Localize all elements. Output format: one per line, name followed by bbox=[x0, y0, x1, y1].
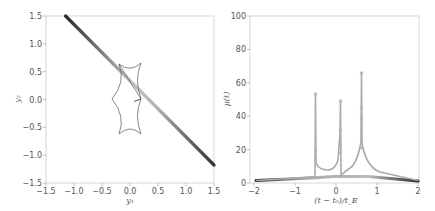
x-tick-label: −1.5 bbox=[36, 187, 55, 196]
left-axes-frame bbox=[46, 16, 214, 183]
y-tick-label: −1.0 bbox=[23, 151, 42, 160]
x-tick-label: 1 bbox=[374, 187, 379, 196]
source-trajectory bbox=[66, 16, 214, 165]
y-tick-label: 1.0 bbox=[29, 40, 42, 49]
y-tick-label: −0.5 bbox=[23, 123, 42, 132]
right-x-axis-label: (t − t₀)/t_E bbox=[314, 196, 358, 205]
y-tick-label: 100 bbox=[231, 12, 246, 21]
x-tick-label: −2 bbox=[248, 187, 260, 196]
left-x-axis-label: y₁ bbox=[125, 196, 134, 205]
right-plot: 100 80 60 40 20 0 −2 −1 0 1 2 (t − t₀)/t… bbox=[222, 12, 421, 205]
x-tick-label: −1 bbox=[289, 187, 301, 196]
left-plot: 1.5 1.0 0.5 0.0 −0.5 −1.0 −1.5 −1.5 −1.0… bbox=[13, 12, 220, 205]
right-y-axis-label: μ(t) bbox=[222, 92, 231, 107]
left-y-axis-label: y₂ bbox=[13, 95, 22, 104]
figure: 1.5 1.0 0.5 0.0 −0.5 −1.0 −1.5 −1.5 −1.0… bbox=[0, 0, 435, 211]
x-tick-label: −0.5 bbox=[92, 187, 111, 196]
y-tick-label: 60 bbox=[236, 79, 246, 88]
x-tick-label: 0.5 bbox=[152, 187, 165, 196]
caustic-curve bbox=[112, 63, 141, 134]
magnification-curve bbox=[256, 73, 418, 181]
left-y-ticks: 1.5 1.0 0.5 0.0 −0.5 −1.0 −1.5 bbox=[23, 12, 46, 188]
x-tick-label: −1.0 bbox=[64, 187, 83, 196]
y-tick-label: 20 bbox=[236, 146, 246, 155]
x-tick-label: 0.0 bbox=[124, 187, 137, 196]
y-tick-label: 0.5 bbox=[29, 68, 42, 77]
y-tick-label: 0 bbox=[241, 179, 246, 188]
left-x-ticks: −1.5 −1.0 −0.5 0.0 0.5 1.0 1.5 bbox=[36, 183, 220, 196]
right-y-ticks: 100 80 60 40 20 0 bbox=[231, 12, 250, 188]
y-tick-label: 40 bbox=[236, 112, 246, 121]
x-tick-label: 2 bbox=[415, 187, 420, 196]
x-tick-label: 1.5 bbox=[208, 187, 221, 196]
x-tick-label: 0 bbox=[333, 187, 338, 196]
x-tick-label: 1.0 bbox=[180, 187, 193, 196]
right-axes-frame bbox=[250, 16, 419, 183]
y-tick-label: 0.0 bbox=[29, 96, 42, 105]
right-x-ticks: −2 −1 0 1 2 bbox=[248, 183, 420, 196]
y-tick-label: 1.5 bbox=[29, 12, 42, 21]
y-tick-label: 80 bbox=[236, 45, 246, 54]
